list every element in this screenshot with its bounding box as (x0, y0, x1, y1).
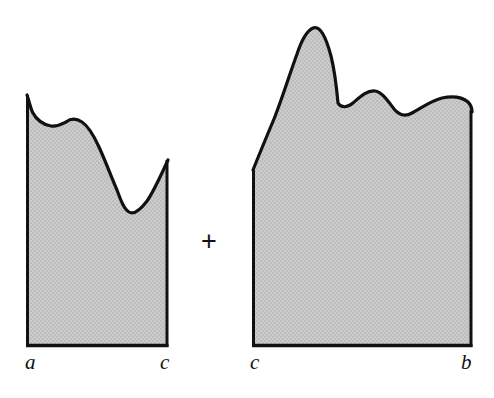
left-region-area (27, 95, 168, 347)
axis-label-c-right: c (250, 352, 259, 373)
left-region-group (26, 95, 169, 347)
right-region-area (253, 28, 472, 347)
right-region-group (252, 28, 473, 347)
axis-label-a: a (25, 352, 36, 373)
integral-additivity-figure: + a c c b (0, 0, 494, 398)
axis-label-c-left: c (160, 352, 169, 373)
figure-canvas (0, 0, 494, 398)
plus-operator: + (201, 228, 217, 255)
axis-label-b: b (461, 352, 472, 373)
